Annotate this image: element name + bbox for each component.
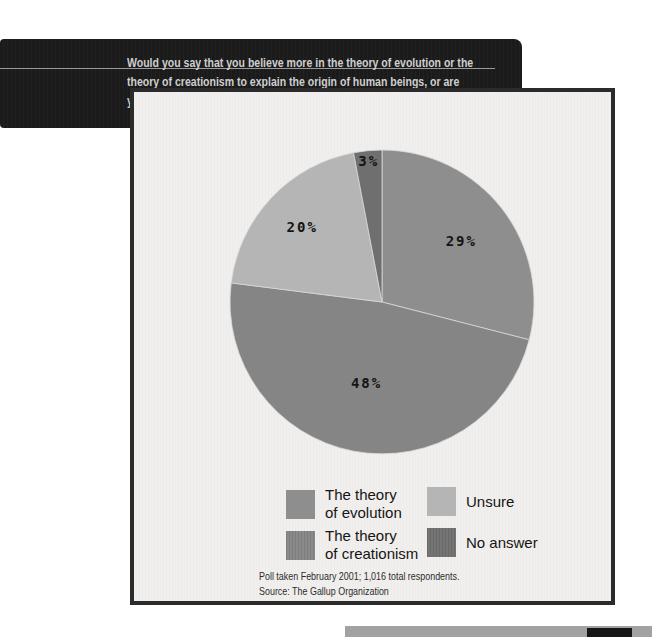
chart-frame: 29%48%20%3% The theory of evolution Unsu… [130,88,615,605]
legend-label-creationism: The theory of creationism [325,527,418,563]
pie-slice-label: 20% [287,219,318,235]
pie-slice-label: 3% [358,153,379,169]
pie-slice-label: 29% [446,233,477,249]
legend-swatch-no-answer [427,528,456,557]
legend-swatch-evolution [286,490,315,519]
legend-item-evolution: The theory of evolution [286,486,402,522]
bottom-strip [345,626,652,637]
legend-label-no-answer: No answer [466,534,538,552]
legend-swatch-creationism [286,531,315,560]
question-line-1: Would you say that you believe more in t… [127,53,494,72]
page: { "question": { "lines": [ "Would you sa… [0,0,652,637]
legend-item-no-answer: No answer [427,528,538,557]
legend-swatch-unsure [427,487,456,516]
legend-item-unsure: Unsure [427,487,514,516]
footer-line-1: Poll taken February 2001; 1,016 total re… [259,569,459,584]
footer-line-2: Source: The Gallup Organization [259,584,459,599]
legend-label-unsure: Unsure [466,493,514,511]
legend-item-creationism: The theory of creationism [286,527,418,563]
bottom-strip-block [587,628,632,637]
pie-chart: 29%48%20%3% [229,149,535,455]
legend-label-evolution: The theory of evolution [325,486,402,522]
footer-note: Poll taken February 2001; 1,016 total re… [259,569,459,599]
pie-slice-label: 48% [351,375,382,391]
